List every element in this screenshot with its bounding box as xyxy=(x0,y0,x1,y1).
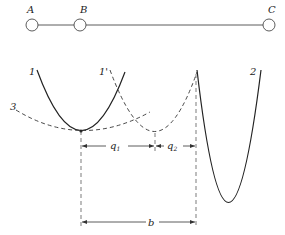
q1-label: q1 xyxy=(110,140,120,152)
curve-2-label: 2 xyxy=(249,66,256,77)
curve-1 xyxy=(37,70,125,131)
node-a-label: A xyxy=(26,4,34,15)
node-c-circle xyxy=(263,19,275,31)
node-line: A B C xyxy=(26,4,276,31)
curve-1-prime xyxy=(110,70,197,132)
b-label: b xyxy=(148,217,154,228)
node-b-circle xyxy=(74,19,86,31)
q2-label: q2 xyxy=(167,140,177,152)
dimension-q2: q2 xyxy=(156,140,195,152)
curve-1-prime-label: 1' xyxy=(99,66,108,77)
node-a-circle xyxy=(26,19,38,31)
curve-3-label: 3 xyxy=(10,101,16,112)
diagram-canvas: A B C 1 1' 3 2 q1 q2 b xyxy=(0,0,285,235)
curve-2 xyxy=(197,70,261,203)
curve-3 xyxy=(16,110,150,131)
dimension-b: b xyxy=(82,217,195,228)
dimension-q1: q1 xyxy=(82,140,154,152)
node-c-label: C xyxy=(268,4,276,15)
node-b-label: B xyxy=(79,4,87,15)
curve-1-label: 1 xyxy=(29,66,35,77)
